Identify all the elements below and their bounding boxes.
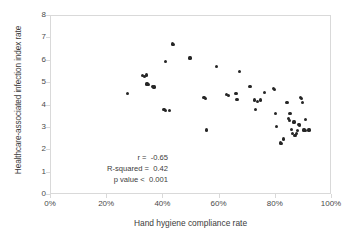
x-tick-mark: [50, 194, 51, 198]
y-tick-mark: [46, 60, 50, 61]
y-tick-label: 4: [32, 101, 46, 109]
correlation-coefficient-label: r = -0.65: [56, 152, 168, 163]
y-tick-label: 8: [32, 11, 46, 19]
x-tick-label: 100%: [311, 200, 351, 208]
x-axis-title: Hand hygiene compliance rate: [50, 218, 331, 228]
y-tick-label: 1: [32, 168, 46, 176]
y-axis-title: Healthcare-associated infection index ra…: [14, 0, 28, 200]
y-tick-label: 6: [32, 56, 46, 64]
y-tick-mark: [46, 172, 50, 173]
r-squared-label: R-squared = 0.42: [56, 163, 168, 174]
scatter-plot-figure: Healthcare-associated infection index ra…: [0, 0, 362, 239]
y-tick-mark: [46, 149, 50, 150]
x-tick-mark: [162, 194, 163, 198]
x-tick-mark: [219, 194, 220, 198]
y-tick-mark: [46, 82, 50, 83]
statistics-annotation: r = -0.65 R-squared = 0.42 p value < 0.0…: [56, 152, 168, 185]
x-tick-mark: [275, 194, 276, 198]
y-tick-label: 3: [32, 123, 46, 131]
y-tick-label: 7: [32, 33, 46, 41]
y-tick-mark: [46, 127, 50, 128]
p-value-label: p value < 0.001: [56, 174, 168, 185]
x-tick-mark: [106, 194, 107, 198]
y-tick-label: 2: [32, 145, 46, 153]
x-tick-label: 60%: [199, 200, 239, 208]
x-tick-mark: [331, 194, 332, 198]
y-tick-mark: [46, 15, 50, 16]
y-tick-label: 5: [32, 78, 46, 86]
x-tick-label: 40%: [142, 200, 182, 208]
x-tick-label: 0%: [30, 200, 70, 208]
y-tick-mark: [46, 105, 50, 106]
y-tick-label: 0: [32, 190, 46, 198]
y-tick-mark: [46, 37, 50, 38]
x-axis-tick-labels: 0%20%40%60%80%100%: [0, 200, 362, 212]
x-tick-label: 20%: [86, 200, 126, 208]
x-tick-label: 80%: [255, 200, 295, 208]
